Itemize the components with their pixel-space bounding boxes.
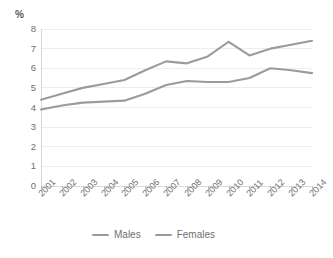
line-chart: % 012345678 2001200220032004200520062007… [0,0,333,258]
legend-swatch-icon [92,234,109,236]
legend-entry-males[interactable]: Males [92,230,141,240]
series-container [41,29,312,186]
y-tick-label-5: 5 [16,83,36,93]
y-tick-label-8: 8 [16,24,36,34]
legend-label: Females [177,230,215,240]
legend-label: Males [114,230,141,240]
y-tick-label-4: 4 [16,103,36,113]
y-tick-label-2: 2 [16,142,36,152]
y-tick-label-3: 3 [16,122,36,132]
y-tick-label-0: 0 [16,181,36,191]
y-axis-unit-label: % [15,9,24,20]
chart-legend: MalesFemales [92,230,215,240]
y-tick-label-6: 6 [16,63,36,73]
legend-swatch-icon [155,234,172,236]
series-line-males [41,41,312,100]
y-tick-label-7: 7 [16,44,36,54]
y-tick-label-1: 1 [16,161,36,171]
legend-entry-females[interactable]: Females [155,230,215,240]
